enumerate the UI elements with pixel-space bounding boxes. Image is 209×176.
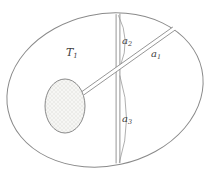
vertical-slit-gap — [117, 14, 120, 163]
cut-label-a1: a1 — [151, 48, 161, 61]
cut-label-a1-sub: 1 — [157, 53, 161, 61]
cut-label-a2-sub: 2 — [127, 40, 132, 48]
region-label-T1: T1 — [66, 46, 78, 60]
vertical-cut-slit — [116, 14, 120, 164]
cut-label-a3: a3 — [122, 113, 132, 126]
cut-label-a2: a2 — [122, 35, 132, 48]
figure-canvas: T1 a1 a2 a3 — [0, 0, 209, 176]
surface-boundary — [0, 0, 209, 176]
region-label-sub: 1 — [73, 52, 77, 60]
hatched-disk — [45, 79, 85, 133]
surface-diagram: T1 a1 a2 a3 — [0, 0, 209, 176]
diagonal-slit-gap — [81, 25, 178, 95]
cut-label-a3-sub: 3 — [128, 118, 132, 126]
diagonal-cut-slit — [81, 25, 178, 95]
